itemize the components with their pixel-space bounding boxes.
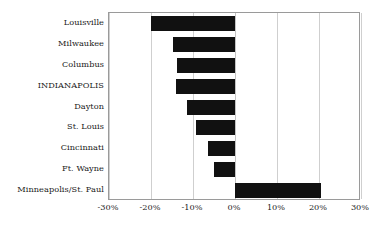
bar-series (109, 13, 359, 199)
x-tick-label: 30% (351, 203, 369, 211)
value-axis-tick-labels: -30%-20%-10%0%10%20%30% (108, 203, 360, 219)
bar (177, 58, 235, 73)
category-label: INDIANAPOLIS (0, 81, 104, 89)
plot-area (108, 12, 360, 200)
category-label: St. Louis (0, 122, 104, 130)
category-label: Cincinnati (0, 143, 104, 151)
category-label: Ft. Wayne (0, 164, 104, 172)
bar (208, 141, 235, 156)
bar (235, 183, 321, 198)
x-tick-label: 20% (309, 203, 327, 211)
x-tick-label: 0% (228, 203, 241, 211)
gridline-30 (361, 13, 362, 199)
x-tick-label: -10% (182, 203, 203, 211)
bar (187, 100, 235, 115)
x-tick-label: 10% (267, 203, 285, 211)
category-label: Louisville (0, 18, 104, 26)
bar (196, 120, 235, 135)
category-label: Milwaukee (0, 39, 104, 47)
bar (214, 162, 235, 177)
x-tick-label: -20% (140, 203, 161, 211)
category-label: Columbus (0, 60, 104, 68)
category-axis-labels: LouisvilleMilwaukeeColumbusINDIANAPOLISD… (0, 12, 104, 200)
bar (173, 37, 235, 52)
category-label: Minneapolis/St. Paul (0, 185, 104, 193)
bar (176, 79, 235, 94)
x-tick-label: -30% (98, 203, 119, 211)
category-label: Dayton (0, 102, 104, 110)
bar (151, 16, 235, 31)
horizontal-bar-chart: LouisvilleMilwaukeeColumbusINDIANAPOLISD… (0, 0, 389, 234)
